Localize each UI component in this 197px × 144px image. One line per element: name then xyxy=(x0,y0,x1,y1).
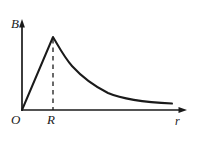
field-curve xyxy=(22,37,172,110)
x-axis-arrowhead xyxy=(179,107,188,113)
x-axis-label: r xyxy=(175,114,180,128)
radius-tick-label: R xyxy=(46,112,55,127)
magnetic-field-vs-radius-figure: B O R r xyxy=(0,0,197,144)
y-axis-arrowhead xyxy=(19,19,25,28)
origin-label: O xyxy=(11,112,21,127)
y-axis-label: B xyxy=(11,16,19,31)
plot-canvas: B O R r xyxy=(0,0,197,144)
